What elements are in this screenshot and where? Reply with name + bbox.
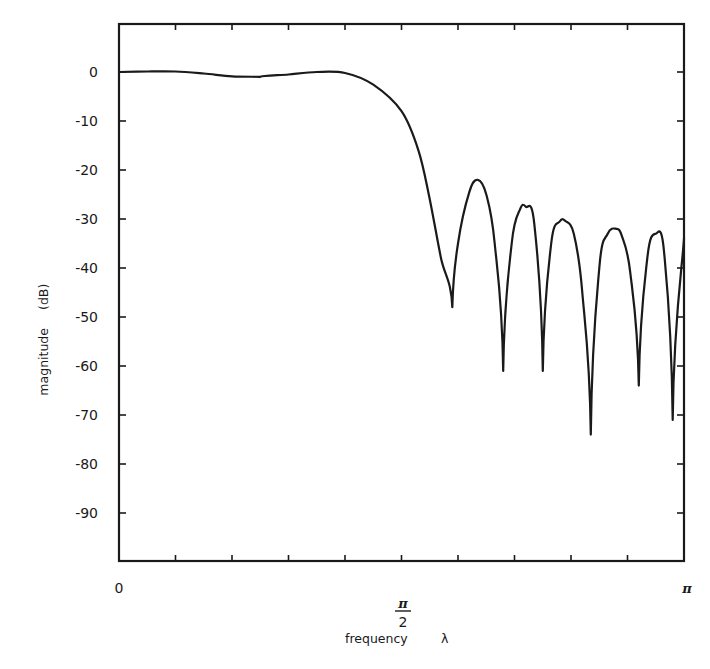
y-tick-label: -40 — [75, 260, 98, 276]
y-tick-label: -20 — [75, 162, 98, 178]
y-tick-label: 0 — [89, 64, 98, 80]
y-tick-label: -90 — [75, 505, 98, 521]
y-axis-label-unit: (dB) — [36, 284, 51, 310]
plot-border — [119, 24, 684, 561]
y-tick-label: -60 — [75, 358, 98, 374]
y-tick-label: -30 — [75, 211, 98, 227]
y-tick-label: -50 — [75, 309, 98, 325]
y-tick-label: -80 — [75, 456, 98, 472]
y-tick-labels: 0-10-20-30-40-50-60-70-80-90 — [75, 64, 98, 521]
plot-frame — [119, 24, 684, 561]
magnitude-curve — [119, 71, 684, 434]
axis-ticks — [119, 24, 684, 561]
x-tick-label-zero: 0 — [115, 580, 124, 596]
y-axis-label: magnitude — [36, 328, 51, 396]
y-tick-label: -70 — [75, 407, 98, 423]
x-tick-label-half-pi-denominator: 2 — [399, 614, 408, 630]
x-axis-label-symbol: λ — [441, 631, 449, 646]
y-axis-label-group: magnitude (dB) — [36, 284, 51, 396]
x-axis-label: frequency — [345, 631, 408, 646]
y-tick-label: -10 — [75, 113, 98, 129]
x-tick-label-pi: π — [681, 581, 692, 596]
magnitude-response-chart: 0-10-20-30-40-50-60-70-80-90 0 π 2 π fre… — [0, 0, 710, 669]
x-tick-label-half-pi-numerator: π — [397, 596, 408, 611]
